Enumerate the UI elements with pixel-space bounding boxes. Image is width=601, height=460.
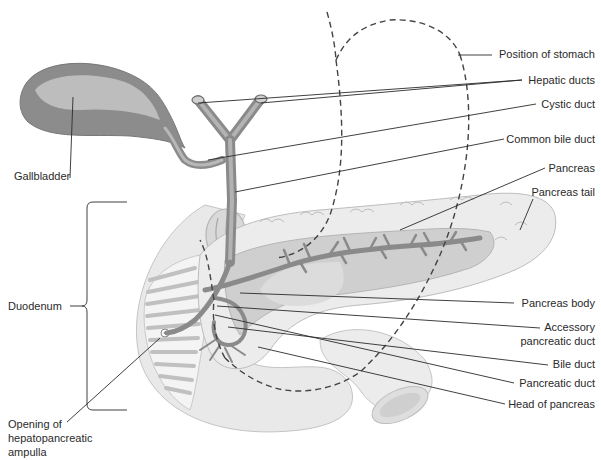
label-cystic-duct: Cystic duct <box>541 98 595 110</box>
duodenum-bracket <box>70 202 127 410</box>
label-accessory-pancreatic-duct-1: Accessory <box>544 321 595 333</box>
label-position-of-stomach: Position of stomach <box>499 48 595 60</box>
label-opening-2: hepatopancreatic <box>8 432 93 444</box>
label-gallbladder: Gallbladder <box>14 170 71 182</box>
label-hepatic-ducts: Hepatic ducts <box>528 74 595 86</box>
label-bile-duct: Bile duct <box>553 358 595 370</box>
label-pancreatic-duct: Pancreatic duct <box>519 377 595 389</box>
label-head-of-pancreas: Head of pancreas <box>508 398 595 410</box>
label-accessory-pancreatic-duct-2: pancreatic duct <box>520 335 595 347</box>
anatomy-diagram: Position of stomach Hepatic ducts Cystic… <box>0 0 601 460</box>
label-duodenum: Duodenum <box>8 300 62 312</box>
label-pancreas-tail: Pancreas tail <box>531 186 595 198</box>
label-common-bile-duct: Common bile duct <box>506 133 595 145</box>
gallbladder <box>20 63 222 165</box>
label-opening-3: ampulla <box>8 446 47 458</box>
label-pancreas-body: Pancreas body <box>522 297 596 309</box>
label-pancreas: Pancreas <box>549 162 596 174</box>
label-opening-1: Opening of <box>8 418 63 430</box>
